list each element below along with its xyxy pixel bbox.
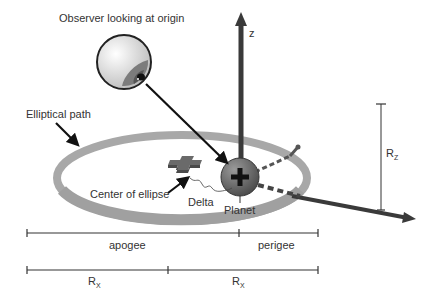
center-of-ellipse-marker bbox=[168, 156, 202, 173]
x-axis-arrow bbox=[292, 196, 416, 223]
rz-main: R bbox=[386, 147, 394, 159]
rz-dimension bbox=[376, 104, 386, 210]
z-axis-label: z bbox=[249, 28, 255, 39]
elliptical-ring bbox=[57, 135, 307, 221]
rz-subscript: Z bbox=[394, 154, 398, 161]
observer-eye bbox=[97, 35, 151, 89]
planet-label: Planet bbox=[224, 205, 255, 216]
rx-right-main: R bbox=[232, 275, 240, 287]
rx-right-subscript: X bbox=[240, 282, 245, 289]
perigee-label: perigee bbox=[258, 240, 295, 251]
center-of-ellipse-label: Center of ellipse bbox=[90, 189, 170, 200]
delta-label: Delta bbox=[188, 197, 214, 208]
rx-label-right: RX bbox=[232, 276, 245, 287]
rz-label: RZ bbox=[386, 148, 398, 159]
rx-label-left: RX bbox=[88, 276, 101, 287]
apogee-perigee-dimension bbox=[27, 229, 318, 237]
planet-sphere bbox=[221, 158, 259, 203]
rx-left-subscript: X bbox=[96, 282, 101, 289]
orbit-diagram bbox=[0, 0, 444, 304]
observer-label: Observer looking at origin bbox=[59, 13, 184, 24]
center-pointer-arrow bbox=[168, 180, 185, 193]
apogee-label: apogee bbox=[109, 240, 146, 251]
rx-dimension bbox=[27, 266, 318, 274]
rx-left-main: R bbox=[88, 275, 96, 287]
view-direction-arrow bbox=[146, 84, 224, 160]
elliptical-path-arrow bbox=[56, 123, 75, 142]
elliptical-path-label: Elliptical path bbox=[26, 109, 91, 120]
